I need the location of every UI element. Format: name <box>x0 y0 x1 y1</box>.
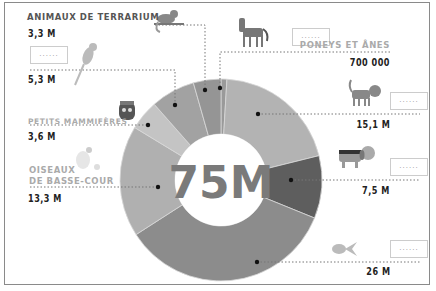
label-fish-value: 26 M <box>366 265 390 278</box>
label-birds-value: 5,3 M <box>28 73 56 86</box>
label-dogs-value: 7,5 M <box>362 184 390 197</box>
label-cats-value: 15,1 M <box>356 118 390 131</box>
label-terrarium-name: ANIMAUX DE TERRARIUM <box>27 12 159 22</box>
label-terrarium-value: 3,3 M <box>28 27 56 40</box>
label-ponies-name: PONEYS ET ÂNES <box>300 40 390 50</box>
center-total: 75M <box>168 157 273 208</box>
label-small-mammals-name: PETITS MAMMIFÈRES <box>28 117 127 126</box>
parrot-icon <box>75 43 97 85</box>
hen-icon <box>76 147 100 170</box>
cat-icon <box>350 80 381 106</box>
label-small-mammals-value: 3,6 M <box>28 130 56 143</box>
label-poultry-value: 13,3 M <box>28 192 62 205</box>
dog-icon <box>339 146 375 168</box>
dogs-placeholder-box: ...... <box>390 158 428 176</box>
fish-placeholder-box: ...... <box>390 240 428 258</box>
label-ponies-value: 700 000 <box>350 56 390 69</box>
cats-placeholder-box: ...... <box>390 92 428 110</box>
horse-icon <box>239 18 268 47</box>
label-poultry-name-line1: OISEAUX <box>29 165 75 175</box>
birds-placeholder-box: ...... <box>30 46 68 64</box>
goldfish-icon <box>332 242 357 256</box>
label-poultry-name-line2: DE BASSE-COUR <box>29 176 114 186</box>
